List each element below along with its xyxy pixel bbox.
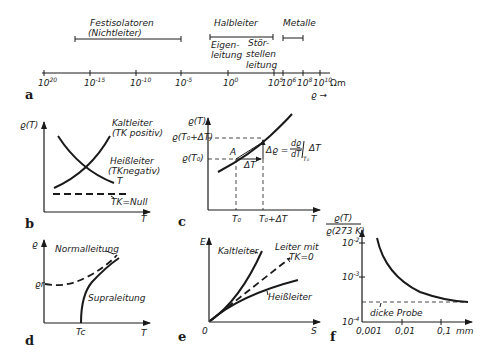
panel-label-a: a (25, 87, 34, 102)
panel-a: Festisolatoren (Nichtleiter) Halbleiter … (25, 18, 346, 102)
zero-tc-label-1: Leiter mit (275, 242, 319, 252)
superconduction-curve (81, 258, 119, 323)
derivative-delta-t: ΔT (308, 143, 322, 153)
t0-label: T₀ (232, 214, 241, 224)
extrinsic-label-2: stellen (246, 49, 276, 59)
semiconductor-label: Halbleiter (214, 18, 259, 28)
insulator-label-2: (Nichtleiter) (88, 28, 142, 38)
ntc-label-3: T (117, 176, 124, 186)
y-tick-label-1: 10-3 (342, 270, 360, 282)
rho-r-label: ϱr (35, 279, 46, 289)
tick-label-2: 10-10 (130, 76, 151, 88)
ntc-label-2: (TKnegativ) (108, 166, 160, 176)
tick-label-7: 108 (297, 76, 312, 88)
rho-t0-label: ϱ(T₀) (182, 153, 204, 163)
point-a-label: A (229, 147, 236, 157)
zero-tc-label: TK=Null (111, 197, 148, 207)
y-axis-label: ϱ(T) (188, 116, 206, 126)
y-axis-label: ϱ (32, 239, 38, 249)
rho-t0dt-label: ϱ(T₀+ΔT) (172, 132, 213, 142)
derivative-subscript: T₀ (303, 155, 310, 162)
thick-sample-label: dicke Probe (370, 308, 423, 318)
tick-label-1: 10-15 (84, 76, 105, 88)
x-tick-label-2: 0,1 (437, 326, 451, 336)
tick-label-3: 10-5 (175, 76, 193, 88)
y-axis-label: E (200, 237, 206, 247)
panel-label-d: d (25, 333, 34, 348)
normal-label: Normalleitung (55, 244, 119, 254)
panel-c: ϱ(T) T ϱ(T₀+ΔT) ϱ(T₀) T₀ T₀+ΔT A ΔT Δϱ =… (172, 114, 322, 229)
t0dt-label: T₀+ΔT (259, 214, 289, 224)
ptc-label-2: (TK positiv) (112, 128, 163, 138)
tangent-line (236, 142, 263, 159)
unit-label: Ωm (330, 78, 346, 88)
origin-label: 0 (202, 326, 208, 336)
thick-sample-leader (380, 303, 381, 307)
tick-label-0: 1020 (38, 76, 57, 88)
supra-label: Supraleitung (88, 293, 146, 303)
x-axis-label: T (311, 214, 318, 224)
y-axis-denominator: ϱ(273 K) (326, 226, 365, 236)
y-tick-label-0: 10-2 (342, 236, 360, 248)
x-axis-label: S (311, 326, 317, 336)
rho-axis-symbol: ϱ → (311, 90, 328, 100)
ntc-label: Heißleiter (268, 292, 313, 302)
delta-t-label: ΔT (243, 160, 257, 170)
x-unit-label: mm (456, 326, 474, 336)
panel-b: ϱ(T) T Kaltleiter (TK positiv) Heißleite… (20, 118, 163, 231)
tick-label-6: 106 (281, 76, 296, 88)
panel-d: ϱ T Normalleitung Supraleitung ϱr Tc d (25, 239, 150, 348)
tc-label: Tc (76, 327, 85, 337)
intrinsic-label-2: leitung (211, 50, 242, 60)
extrinsic-label-3: leitung (246, 60, 277, 70)
figure-canvas: Festisolatoren (Nichtleiter) Halbleiter … (0, 0, 493, 358)
ntc-label-1: Heißleiter (110, 156, 155, 166)
panel-label-b: b (25, 216, 34, 231)
ptc-label: Kaltleiter (218, 246, 260, 256)
intrinsic-label-1: Eigen- (211, 40, 239, 50)
panel-label-f: f (330, 329, 337, 344)
delta-rho-label: Δϱ = (265, 145, 288, 155)
x-tick-label-1: 0,01 (395, 326, 415, 336)
resistance-ratio-curve (377, 238, 468, 302)
derivative-numerator: dϱ (291, 139, 301, 148)
metal-range-bar (283, 35, 303, 41)
normal-conduction-curve (45, 255, 117, 285)
panel-label-e: e (178, 329, 186, 344)
panel-f: ϱ(T) ϱ(273 K) 10-2 10-3 10-4 0,001 0,01 … (326, 213, 474, 344)
zero-tc-label-2: TK=0 (289, 252, 314, 262)
panel-label-c: c (178, 214, 186, 229)
derivative-denominator: dT (291, 150, 302, 159)
x-tick-label-0: 0,001 (356, 326, 382, 336)
ptc-label-1: Kaltleiter (112, 118, 154, 128)
y-axis-numerator: ϱ(T) (334, 213, 352, 223)
y-axis-label: ϱ(T) (20, 120, 38, 130)
panel-e: E S 0 Kaltleiter Leiter mit TK=0 Heißlei… (178, 237, 320, 344)
extrinsic-label-1: Stör- (248, 38, 269, 48)
insulator-label-1: Festisolatoren (90, 18, 154, 28)
x-axis-label: T (141, 328, 148, 338)
x-axis-label: T (141, 214, 148, 224)
metal-label: Metalle (283, 18, 316, 28)
tick-label-4: 100 (223, 76, 238, 88)
